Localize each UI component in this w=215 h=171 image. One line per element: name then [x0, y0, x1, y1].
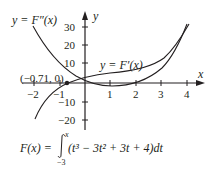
y-axis-label: y — [93, 10, 98, 22]
y-tick-label: 30 — [64, 22, 75, 33]
x-tick-label: 1 — [107, 89, 113, 100]
label-second-derivative: y = F″(x) — [12, 14, 57, 26]
integral-sign — [58, 135, 65, 158]
y-axis — [82, 11, 88, 130]
y-tick-label: 10 — [64, 58, 75, 69]
y-tick-label: −20 — [58, 115, 75, 126]
root-point — [65, 81, 69, 85]
y-tick-label: −10 — [58, 97, 75, 108]
formula-lower-limit: −3 — [57, 159, 66, 167]
x-tick-label: 2 — [133, 89, 139, 100]
root-point-label: (−0.71, 0) — [20, 73, 64, 84]
label-first-derivative: y = F′(x) — [100, 59, 143, 71]
y-tick-label: 20 — [64, 40, 75, 51]
formula-upper-limit: x — [65, 131, 69, 139]
x-axis-label: x — [198, 68, 203, 80]
x-tick-label: −2 — [27, 89, 39, 100]
formula-lhs: F(x) = — [20, 142, 52, 154]
x-tick-label: 3 — [158, 89, 164, 100]
x-tick-label: 4 — [184, 89, 190, 100]
formula-integrand: (t³ − 3t² + 3t + 4)dt — [68, 142, 163, 154]
